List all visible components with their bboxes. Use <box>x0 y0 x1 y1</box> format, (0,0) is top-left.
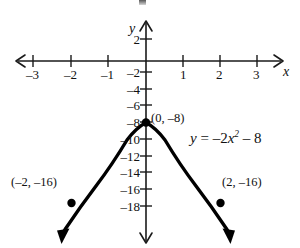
x-tick-label--2: –2 <box>64 68 77 81</box>
left-point-marker <box>67 199 75 207</box>
left-point-label: (–2, –16) <box>11 176 57 189</box>
y-tick-label--6: –6 <box>118 99 140 112</box>
y-tick-label--16: –16 <box>111 183 140 196</box>
x-axis <box>16 55 283 67</box>
equation-equals: = <box>200 130 208 146</box>
y-tick-label--4: –4 <box>118 83 140 96</box>
x-tick-label-2: 2 <box>216 68 223 81</box>
equation-constant: 8 <box>254 130 262 146</box>
equation-lhs: y <box>190 130 197 146</box>
equation-coefficient: –2 <box>213 130 228 146</box>
right-point-label: (2, –16) <box>222 176 262 189</box>
parabola-graph-figure: –3 –2 –1 1 2 3 2 –2 –4 –6 –8 –10 –12 –14… <box>0 0 300 248</box>
graph-canvas <box>0 0 300 248</box>
vertex-marker <box>142 118 150 126</box>
x-tick-label-3: 3 <box>253 68 260 81</box>
y-tick-label--18: –18 <box>111 200 140 213</box>
x-tick-label-1: 1 <box>180 68 187 81</box>
curve-left-arrowhead <box>57 229 70 245</box>
right-point-marker <box>216 199 224 207</box>
equation-label: y = –2x2 – 8 <box>190 131 262 146</box>
y-axis-name-label: y <box>129 22 135 36</box>
y-tick-label--2: –2 <box>118 66 140 79</box>
y-tick-label--12: –12 <box>111 150 140 163</box>
x-tick-label--3: –3 <box>26 68 39 81</box>
vertex-point-label: (0, –8) <box>151 112 184 125</box>
x-axis-name-label: x <box>283 65 289 79</box>
y-tick-label--10: –10 <box>111 133 140 146</box>
y-axis <box>140 21 152 243</box>
x-tick-label--1: –1 <box>101 68 114 81</box>
y-tick-label--8: –8 <box>118 116 140 129</box>
y-tick-label--14: –14 <box>111 166 140 179</box>
curve-right-arrowhead <box>223 229 236 245</box>
